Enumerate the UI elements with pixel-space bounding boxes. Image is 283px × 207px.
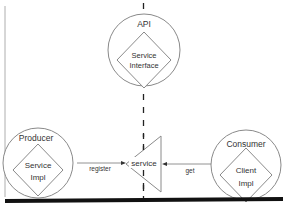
get-edge: get [162, 162, 211, 175]
api-inner-line2: Interface [129, 61, 158, 70]
register-edge: register [77, 161, 126, 173]
get-arrowhead [162, 162, 167, 166]
producer-node: Producer Service Impl [3, 128, 73, 198]
architecture-diagram: API Service Interface Producer Service I… [0, 0, 283, 207]
producer-inner-line1: Service [25, 161, 52, 170]
producer-inner-line2: Impl [30, 173, 45, 182]
api-inner-line1: Service [131, 51, 156, 60]
service-label: service [131, 159, 157, 168]
producer-title: Producer [19, 133, 54, 143]
api-title: API [137, 19, 151, 29]
api-node: API Service Interface [108, 14, 180, 88]
consumer-node: Consumer Client Impl [211, 130, 281, 202]
consumer-inner-line1: Client [236, 166, 257, 175]
get-label: get [185, 167, 194, 175]
consumer-inner-line2: Impl [238, 179, 253, 188]
register-arrowhead [121, 161, 126, 165]
register-label: register [89, 165, 112, 173]
